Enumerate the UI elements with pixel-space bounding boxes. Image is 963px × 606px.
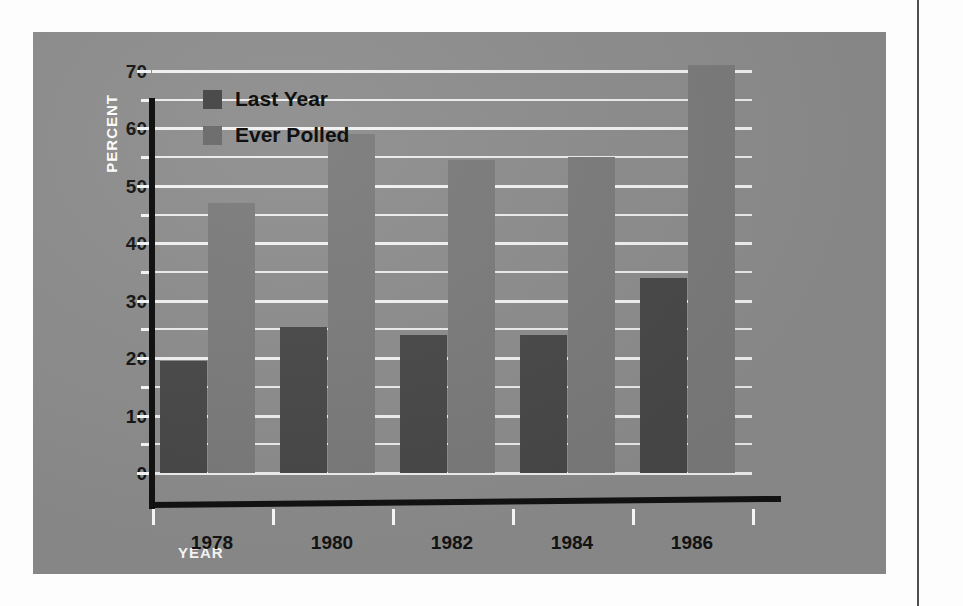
x-axis-line (149, 496, 781, 508)
chart-panel: 010203040506070 PERCENT YEAR 19781980198… (33, 32, 886, 574)
legend-item-last-year: Last Year (203, 87, 349, 111)
bar-last-year-1986 (640, 278, 687, 473)
x-tick-label: 1980 (292, 532, 372, 554)
bar-ever-polled-1982 (448, 160, 495, 473)
x-tick-label: 1986 (652, 532, 732, 554)
x-tick-label: 1978 (172, 532, 252, 554)
legend-item-ever-polled: Ever Polled (203, 123, 349, 147)
x-tick-mark (152, 509, 155, 525)
y-tick-mark (137, 70, 151, 73)
chart-page: 010203040506070 PERCENT YEAR 19781980198… (0, 0, 963, 606)
x-tick-label: 1982 (412, 532, 492, 554)
bar-ever-polled-1986 (688, 65, 735, 473)
chart-legend: Last Year Ever Polled (203, 87, 349, 159)
y-axis-line (149, 98, 155, 509)
y-axis-title: PERCENT (103, 94, 120, 173)
bar-ever-polled-1978 (208, 203, 255, 473)
x-tick-mark (392, 509, 395, 525)
dark-gray-swatch-icon (203, 90, 222, 109)
bar-last-year-1984 (520, 335, 567, 473)
bar-last-year-1982 (400, 335, 447, 473)
bar-ever-polled-1980 (328, 134, 375, 473)
bar-ever-polled-1984 (568, 157, 615, 473)
page-edge-rule (917, 0, 919, 606)
bar-last-year-1978 (160, 361, 207, 473)
medium-gray-swatch-icon (203, 126, 222, 145)
gridline-major (152, 70, 752, 73)
x-tick-mark (512, 509, 515, 525)
legend-label-ever-polled: Ever Polled (235, 123, 349, 147)
x-tick-mark (632, 509, 635, 525)
bar-last-year-1980 (280, 327, 327, 473)
x-tick-mark (752, 509, 755, 525)
x-tick-mark (272, 509, 275, 525)
legend-label-last-year: Last Year (235, 87, 328, 111)
x-tick-label: 1984 (532, 532, 612, 554)
